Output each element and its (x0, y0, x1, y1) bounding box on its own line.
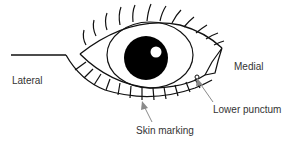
pupil-highlight (151, 47, 162, 58)
lateral-label: Lateral (12, 75, 43, 86)
skin-marking-label: Skin marking (136, 125, 194, 136)
skin-marking-arrow (141, 101, 152, 122)
caruncle (205, 48, 222, 75)
lower-punctum-label: Lower punctum (213, 104, 281, 115)
eye-diagram: Lateral Medial Lower punctum Skin markin… (0, 0, 297, 147)
medial-label: Medial (234, 61, 263, 72)
pupil (124, 36, 168, 80)
